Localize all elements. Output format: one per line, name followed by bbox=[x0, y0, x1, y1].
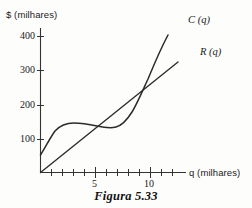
cost-curve bbox=[41, 35, 169, 155]
x-tick-label-10: 10 bbox=[144, 179, 154, 189]
figure-caption: Figura 5.33 bbox=[0, 190, 252, 203]
cost-curve-label: C (q) bbox=[188, 15, 210, 26]
figure-container: $ (milhares) q (milhares) 400 300 200 10… bbox=[0, 0, 252, 208]
y-axis-title: $ (milhares) bbox=[6, 10, 57, 20]
y-tick-label-100: 100 bbox=[20, 134, 35, 144]
revenue-line bbox=[41, 62, 179, 173]
x-axis-title: q (milhares) bbox=[189, 168, 240, 178]
revenue-line-label: R (q) bbox=[200, 47, 221, 58]
y-tick-label-200: 200 bbox=[20, 100, 35, 110]
y-tick-label-400: 400 bbox=[20, 31, 35, 41]
y-tick-label-300: 300 bbox=[20, 65, 35, 75]
x-tick-label-5: 5 bbox=[92, 179, 97, 189]
